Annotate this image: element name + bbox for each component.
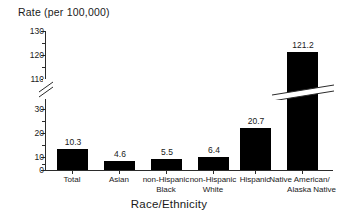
category-label-nh-white-line2: White <box>181 185 245 195</box>
y-axis-line-lower <box>45 96 46 171</box>
y-tick-label-20: 20 <box>35 129 44 138</box>
bar-asian[interactable] <box>104 161 135 170</box>
y-tick-label-10: 10 <box>35 153 44 162</box>
category-label-native-american-line2: Alaska Native <box>263 185 336 195</box>
bar-value-native-american: 121.2 <box>281 41 325 50</box>
x-tick-nh-black <box>166 170 167 174</box>
bar-value-total: 10.3 <box>52 138 94 147</box>
y-tick-label-120: 120 <box>30 51 44 60</box>
x-axis-title: Race/Ethnicity <box>0 198 338 210</box>
category-label-native-american: Native American/ Alaska Native <box>263 175 336 195</box>
x-tick-hispanic <box>255 170 256 174</box>
category-label-total-line1: Total <box>64 175 81 184</box>
x-tick-asian <box>119 170 120 174</box>
x-tick-total <box>72 170 73 174</box>
bar-value-asian: 4.6 <box>99 150 141 159</box>
axis-break-icon <box>37 79 55 99</box>
y-tick-minor-15 <box>42 145 45 146</box>
x-axis-line <box>45 170 333 171</box>
bar-value-nh-white: 6.4 <box>193 146 235 155</box>
category-label-total: Total <box>48 175 96 185</box>
y-tick-minor-115 <box>42 67 45 68</box>
bar-chart: Rate (per 100,000) 130 120 110 30 20 10 … <box>0 0 338 222</box>
bar-value-nh-black: 5.5 <box>146 148 188 157</box>
y-tick-minor-25 <box>42 121 45 122</box>
bar-hispanic[interactable] <box>240 128 271 170</box>
y-tick-label-30: 30 <box>35 105 44 114</box>
plot-area: 130 120 110 30 20 10 0 <box>0 0 338 222</box>
y-tick-label-0: 0 <box>39 166 44 175</box>
bar-value-hispanic: 20.7 <box>235 117 277 126</box>
bar-nh-black[interactable] <box>151 159 182 170</box>
y-tick-minor-125 <box>42 43 45 44</box>
bar-native-american[interactable] <box>287 52 318 170</box>
bar-total[interactable] <box>57 149 88 170</box>
category-label-asian-line1: Asian <box>109 175 129 184</box>
x-tick-nh-white <box>213 170 214 174</box>
x-tick-native-american <box>302 170 303 174</box>
y-tick-label-130: 130 <box>30 27 44 36</box>
bar-nh-white[interactable] <box>198 157 229 170</box>
category-label-native-american-line1: Native American/ <box>269 175 329 184</box>
